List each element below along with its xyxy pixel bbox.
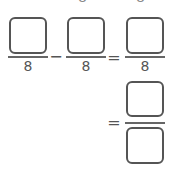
numerator-input-2[interactable] [67,17,105,54]
numerator-input-1[interactable] [9,17,47,54]
equals-sign-1: = [107,50,121,66]
minus-sign: − [49,49,63,65]
partial-digit-right: 8 [136,0,145,4]
numerator-input-3[interactable] [126,17,164,54]
equals-sign-2: = [107,115,121,131]
denominator-1: 8 [8,59,48,73]
denominator-3: 8 [125,59,165,73]
result-denominator-input[interactable] [126,127,164,164]
result-fraction-bar [125,122,165,124]
partial-digit-left: 8 [78,0,87,4]
denominator-2: 8 [66,59,106,73]
result-numerator-input[interactable] [126,81,164,117]
